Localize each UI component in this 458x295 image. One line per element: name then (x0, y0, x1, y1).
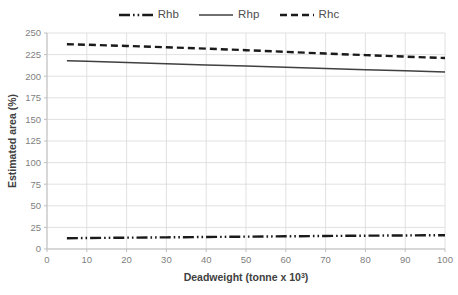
y-tick-label: 250 (25, 27, 41, 38)
x-tick-label: 60 (281, 254, 292, 265)
plot-area: 0255075100125150175200225250 01020304050… (0, 0, 458, 295)
y-axis-title: Estimated area (%) (6, 94, 18, 188)
x-tick-label: 70 (320, 254, 331, 265)
series-line-rhp (67, 61, 445, 72)
axis-titles: Deadweight (tonne x 103)Estimated area (… (6, 94, 308, 283)
x-tick-label: 90 (400, 254, 411, 265)
x-tick-label: 50 (241, 254, 252, 265)
y-tick-label: 0 (36, 243, 41, 254)
x-tick-label: 40 (201, 254, 212, 265)
line-chart: Rhb Rhp Rhc 0255075100125150175200225250… (0, 0, 458, 295)
x-tick-label: 10 (82, 254, 93, 265)
y-tick-label: 75 (30, 179, 41, 190)
y-tick-label: 200 (25, 71, 41, 82)
y-tick-label: 225 (25, 49, 41, 60)
series-line-rhb (67, 235, 445, 238)
y-tick-label: 150 (25, 114, 41, 125)
x-tick-label: 0 (44, 254, 49, 265)
x-tick-label: 100 (437, 254, 453, 265)
series-line-rhc (67, 44, 445, 58)
y-tick-label: 50 (30, 200, 41, 211)
x-tick-label: 20 (121, 254, 132, 265)
x-tick-label: 30 (161, 254, 172, 265)
x-axis-tick-labels: 0102030405060708090100 (44, 249, 453, 265)
y-tick-label: 175 (25, 92, 41, 103)
x-tick-label: 80 (360, 254, 371, 265)
y-tick-label: 25 (30, 222, 41, 233)
y-axis-tick-labels: 0255075100125150175200225250 (25, 27, 47, 254)
y-tick-label: 100 (25, 157, 41, 168)
x-axis-title: Deadweight (tonne x 103) (184, 271, 309, 283)
y-tick-label: 125 (25, 135, 41, 146)
